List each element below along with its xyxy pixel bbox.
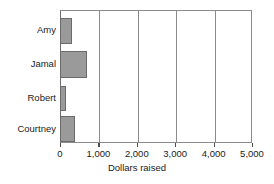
tick-1000	[98, 143, 99, 147]
tick-2000	[137, 143, 138, 147]
bars-group	[60, 10, 252, 143]
category-label-amy: Amy	[37, 25, 56, 35]
tick-0	[60, 143, 61, 147]
category-labels: Amy Jamal Robert Courtney	[0, 10, 56, 143]
bar-chart: Amy Jamal Robert Courtney 0 1,000 2,000 …	[0, 0, 274, 184]
bar-amy	[60, 18, 72, 44]
tick-label-5000: 5,000	[240, 148, 264, 159]
x-axis-label: Dollars raised	[0, 162, 274, 173]
bar-robert	[60, 86, 66, 111]
x-axis-tick-labels: 0 1,000 2,000 3,000 4,000 5,000	[60, 148, 252, 160]
tick-label-3000: 3,000	[163, 148, 187, 159]
tick-label-4000: 4,000	[202, 148, 226, 159]
tick-label-0: 0	[57, 148, 62, 159]
category-label-jamal: Jamal	[31, 59, 56, 69]
bar-jamal	[60, 51, 87, 78]
category-label-courtney: Courtney	[17, 124, 56, 134]
tick-3000	[175, 143, 176, 147]
tick-label-2000: 2,000	[125, 148, 149, 159]
tick-5000	[252, 143, 253, 147]
tick-4000	[214, 143, 215, 147]
bar-courtney	[60, 116, 75, 142]
tick-label-1000: 1,000	[87, 148, 111, 159]
category-label-robert: Robert	[27, 93, 56, 103]
